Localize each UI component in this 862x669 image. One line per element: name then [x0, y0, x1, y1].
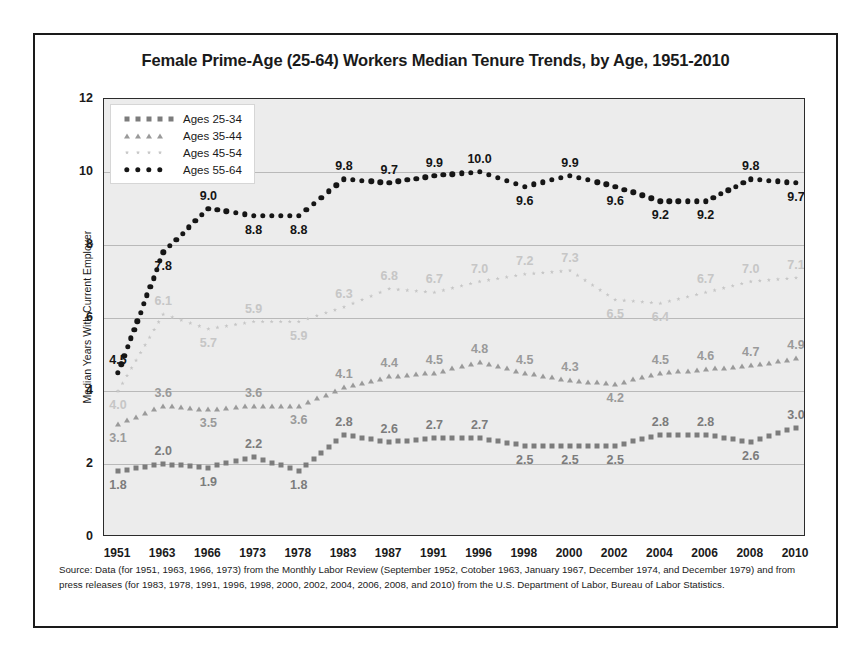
x-axis-tick-label: 1987 [375, 546, 402, 560]
data-point-marker [590, 283, 595, 288]
data-point-marker [549, 375, 555, 380]
data-point-marker [486, 437, 491, 442]
data-point-marker [142, 410, 148, 415]
data-value-label: 4.1 [335, 367, 352, 381]
data-point-marker [667, 198, 672, 203]
data-point-marker [405, 177, 410, 182]
data-point-marker [386, 180, 391, 185]
data-point-marker [775, 431, 780, 436]
data-point-marker [703, 198, 708, 203]
data-value-label: 2.8 [335, 415, 352, 429]
data-point-marker [152, 327, 157, 332]
data-value-label: 10.0 [467, 152, 491, 166]
data-point-marker [125, 373, 130, 378]
legend-item-label: Ages 55-64 [183, 164, 242, 176]
data-value-label: 2.2 [245, 437, 262, 451]
data-point-marker [147, 335, 152, 340]
data-point-marker [278, 213, 283, 218]
data-point-marker [741, 180, 746, 185]
data-point-marker [144, 293, 149, 298]
data-point-marker [134, 466, 139, 471]
data-point-marker [369, 437, 374, 442]
legend-item-label: Ages 45-54 [183, 147, 242, 159]
data-point-marker [640, 300, 645, 305]
data-point-marker [685, 368, 691, 373]
data-point-marker [396, 439, 401, 444]
data-point-marker [128, 336, 133, 341]
data-point-marker [224, 461, 229, 466]
data-value-label: 4.2 [606, 391, 623, 405]
x-axis-tick-label: 2002 [601, 546, 628, 560]
data-point-marker [622, 441, 627, 446]
data-point-marker [522, 184, 527, 189]
data-point-marker [125, 467, 130, 472]
data-point-marker [604, 443, 609, 448]
legend-item-ages-45-54[interactable]: Ages 45-54 [119, 144, 242, 161]
data-point-marker [387, 440, 392, 445]
data-value-label: 8.8 [290, 223, 307, 237]
data-point-marker [594, 180, 599, 185]
data-value-label: 2.5 [516, 453, 533, 467]
data-point-marker [360, 297, 365, 302]
data-point-marker [449, 366, 455, 371]
legend-marker-glyph [158, 150, 163, 155]
data-point-marker [260, 403, 266, 408]
y-axis-tick-label: 8 [33, 237, 93, 251]
data-point-marker [748, 177, 753, 182]
data-point-marker [558, 175, 563, 180]
data-point-marker [676, 297, 681, 302]
data-point-marker [477, 169, 482, 174]
data-value-label: 2.0 [154, 444, 171, 458]
data-point-marker [413, 372, 419, 377]
data-point-marker [287, 403, 293, 408]
data-point-marker [613, 297, 618, 302]
chart-legend: Ages 25-34Ages 35-44Ages 45-54Ages 55-64 [110, 104, 255, 184]
data-point-marker [378, 438, 383, 443]
data-point-marker [350, 177, 355, 182]
legend-item-ages-55-64[interactable]: Ages 55-64 [119, 161, 242, 178]
data-value-label: 2.6 [380, 422, 397, 436]
data-point-marker [269, 213, 274, 218]
data-point-marker [423, 437, 428, 442]
data-point-marker [603, 182, 608, 187]
data-point-marker [622, 187, 627, 192]
data-value-label: 9.7 [787, 190, 804, 204]
legend-marker-glyph [124, 167, 129, 172]
data-value-label: 7.0 [742, 262, 759, 276]
data-point-marker [640, 437, 645, 442]
data-point-marker [395, 373, 401, 378]
data-point-marker [540, 180, 545, 185]
data-value-label: 3.6 [245, 386, 262, 400]
y-axis-tick-label: 2 [33, 456, 93, 470]
data-point-marker [694, 367, 700, 372]
x-axis-tick-label: 1983 [330, 546, 357, 560]
data-point-marker [766, 360, 772, 365]
data-point-marker [151, 275, 156, 280]
data-point-marker [141, 301, 146, 306]
legend-item-ages-25-34[interactable]: Ages 25-34 [119, 110, 242, 127]
data-point-marker [667, 432, 672, 437]
gridline [104, 318, 804, 319]
data-point-marker [404, 372, 410, 377]
data-point-marker [450, 436, 455, 441]
x-axis-tick-label: 1951 [104, 546, 131, 560]
data-point-marker [595, 443, 600, 448]
data-point-marker [576, 175, 581, 180]
data-value-label: 9.2 [652, 208, 669, 222]
data-point-marker [766, 178, 771, 183]
data-point-marker [549, 443, 554, 448]
data-point-marker [794, 425, 799, 430]
legend-marker-glyph [125, 150, 130, 155]
x-axis-tick-label: 2000 [556, 546, 583, 560]
data-point-marker [326, 189, 331, 194]
plot-area: 1.82.01.92.21.82.82.62.72.72.52.52.52.82… [103, 98, 805, 536]
legend-item-ages-35-44[interactable]: Ages 35-44 [119, 127, 242, 144]
data-value-label: 9.6 [606, 194, 623, 208]
data-point-marker [351, 434, 356, 439]
data-point-marker [170, 462, 175, 467]
data-value-label: 7.3 [561, 251, 578, 265]
data-point-marker [703, 432, 708, 437]
data-point-marker [396, 179, 401, 184]
data-point-marker [188, 321, 193, 326]
data-point-marker [151, 407, 157, 412]
